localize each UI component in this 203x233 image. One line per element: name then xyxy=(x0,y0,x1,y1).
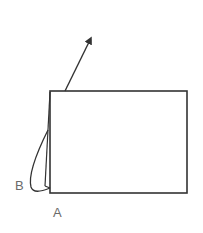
label-a: A xyxy=(53,206,62,219)
diagram-canvas: B A xyxy=(0,0,203,233)
label-b: B xyxy=(15,179,24,192)
arrow-icon xyxy=(65,40,90,91)
diagram-svg xyxy=(0,0,203,233)
sheet-rectangle xyxy=(50,91,187,193)
